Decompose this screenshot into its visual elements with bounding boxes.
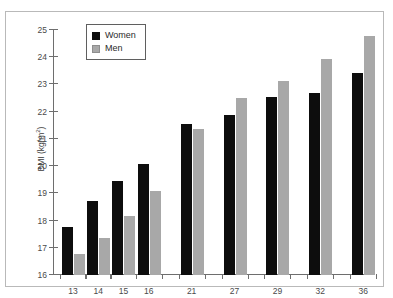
x-axis-tick	[376, 274, 377, 279]
bar-women-36	[352, 73, 363, 275]
bar-group: 15	[112, 30, 135, 275]
x-axis-tick	[60, 274, 61, 279]
bar-men-27	[236, 98, 247, 275]
bar-women-21	[181, 124, 192, 275]
bar-groups: 131415162127293236	[53, 30, 371, 275]
bar-women-14	[87, 201, 98, 275]
bar-men-13	[74, 254, 85, 275]
bar-men-21	[193, 129, 204, 275]
x-axis-tick	[222, 274, 223, 279]
legend-item-women: Women	[92, 29, 136, 42]
bar-men-15	[124, 216, 135, 275]
bar-men-32	[321, 59, 332, 275]
bar-group: 32	[309, 30, 332, 275]
x-axis-label-13: 13	[68, 287, 77, 296]
gray-square-icon	[92, 45, 100, 53]
bar-men-36	[364, 36, 375, 275]
y-axis-label: 21	[38, 135, 47, 144]
x-axis-tick	[248, 274, 249, 279]
chart-frame: BMI (kg/m2) 16171819202122232425 1314151…	[5, 11, 384, 287]
x-axis-label-29: 29	[273, 287, 282, 296]
y-axis-label: 19	[38, 189, 47, 198]
y-axis-label: 16	[38, 271, 47, 280]
x-axis-tick	[179, 274, 180, 279]
y-axis-title-close: )	[36, 127, 46, 130]
x-axis-label-15: 15	[119, 287, 128, 296]
bar-men-16	[150, 191, 161, 275]
legend: WomenMen	[86, 24, 146, 60]
bar-women-15	[112, 181, 123, 275]
bar-group: 27	[224, 30, 247, 275]
x-axis-tick	[307, 274, 308, 279]
bar-women-13	[62, 227, 73, 275]
x-axis-tick	[110, 274, 111, 279]
x-axis-tick	[264, 274, 265, 279]
y-axis-label: 17	[38, 244, 47, 253]
y-axis-title-exponent: 2	[35, 129, 41, 132]
x-axis-tick	[205, 274, 206, 279]
legend-label: Men	[105, 44, 123, 53]
y-axis-label: 25	[38, 26, 47, 35]
bar-group: 29	[266, 30, 289, 275]
x-axis-tick	[333, 274, 334, 279]
bar-group: 13	[62, 30, 85, 275]
x-axis-tick	[162, 274, 163, 279]
bar-group: 36	[352, 30, 375, 275]
bar-group: 14	[87, 30, 110, 275]
y-axis-label: 22	[38, 107, 47, 116]
bar-women-32	[309, 93, 320, 275]
x-axis-label-36: 36	[359, 287, 368, 296]
bar-women-16	[138, 164, 149, 275]
x-axis-label-14: 14	[94, 287, 103, 296]
x-axis-label-27: 27	[230, 287, 239, 296]
x-axis-label-21: 21	[187, 287, 196, 296]
y-axis-label: 18	[38, 216, 47, 225]
black-square-icon	[92, 32, 100, 40]
bar-women-27	[224, 115, 235, 275]
bar-women-29	[266, 97, 277, 275]
x-axis-tick	[350, 274, 351, 279]
bar-group: 16	[138, 30, 161, 275]
bar-group: 21	[181, 30, 204, 275]
y-axis-label: 23	[38, 80, 47, 89]
legend-label: Women	[105, 31, 136, 40]
x-axis-tick	[85, 274, 86, 279]
x-axis-label-16: 16	[144, 287, 153, 296]
x-axis-tick	[136, 274, 137, 279]
y-axis-label: 24	[38, 53, 47, 62]
bar-men-14	[99, 238, 110, 275]
legend-item-men: Men	[92, 42, 136, 55]
x-axis-label-32: 32	[316, 287, 325, 296]
plot-area: 16171819202122232425 131415162127293236	[53, 30, 371, 275]
y-axis-label: 20	[38, 162, 47, 171]
x-axis-tick	[290, 274, 291, 279]
bar-men-29	[278, 81, 289, 275]
